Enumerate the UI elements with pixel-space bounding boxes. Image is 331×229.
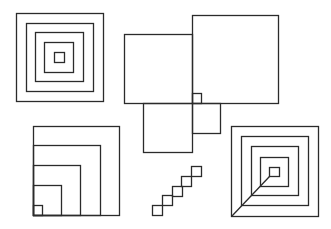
geometric-squares-diagram <box>0 0 331 229</box>
diagonal-staircase-squares <box>153 167 202 216</box>
square <box>36 33 84 82</box>
square <box>182 177 192 187</box>
square <box>34 206 43 216</box>
square <box>173 187 183 197</box>
square <box>55 53 65 63</box>
corner-nested-squares <box>34 127 120 216</box>
square <box>34 146 101 216</box>
concentric-squares-with-diagonal <box>232 127 319 217</box>
square <box>34 127 120 216</box>
square <box>125 35 193 104</box>
square <box>270 168 280 177</box>
square <box>34 186 62 216</box>
diagram-svg <box>0 0 331 229</box>
square <box>17 14 104 102</box>
overlapping-squares-cluster <box>125 16 279 153</box>
square <box>34 166 81 216</box>
square <box>193 16 279 104</box>
concentric-squares <box>17 14 104 102</box>
square <box>192 167 202 177</box>
square <box>45 43 74 73</box>
square <box>163 196 173 206</box>
square <box>193 104 221 134</box>
square <box>144 104 193 153</box>
square <box>153 206 163 216</box>
diagonal-line <box>232 177 270 217</box>
square <box>193 94 202 104</box>
